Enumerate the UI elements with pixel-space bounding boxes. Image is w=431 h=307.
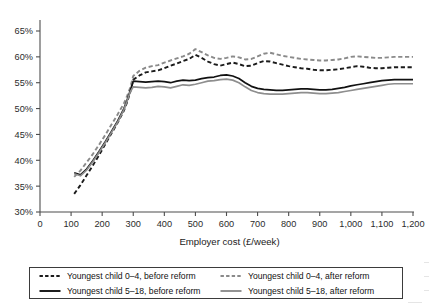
- series-line-1: [74, 55, 413, 194]
- x-tick-group: 01002003004005006007008009001,0001,1001,…: [37, 212, 424, 229]
- x-tick-label: 400: [157, 219, 172, 229]
- y-tick-label: 30%: [15, 207, 33, 217]
- y-tick-label: 55%: [15, 78, 33, 88]
- x-tick-label: 0: [37, 219, 42, 229]
- chart-plot-area: 30%35%40%45%50%55%60%65% 010020030040050…: [0, 0, 431, 258]
- legend-item-label: Youngest child 5–18, before reform: [67, 286, 200, 296]
- x-tick-label: 1,100: [370, 219, 393, 229]
- y-tick-label: 35%: [15, 182, 33, 192]
- x-axis: 01002003004005006007008009001,0001,1001,…: [37, 212, 424, 229]
- legend-item-label: Youngest child 0–4, before reform: [67, 271, 196, 281]
- legend-item[interactable]: Youngest child 0–4, before reform: [30, 269, 216, 283]
- x-tick-label: 700: [250, 219, 265, 229]
- dashed-line-icon: [39, 272, 61, 280]
- x-tick-label: 900: [312, 219, 327, 229]
- y-tick-label: 65%: [15, 26, 33, 36]
- y-tick-group: 30%35%40%45%50%55%60%65%: [15, 26, 40, 217]
- x-tick-label: 800: [281, 219, 296, 229]
- y-tick-label: 45%: [15, 130, 33, 140]
- legend-item-label: Youngest child 5–18, after reform: [248, 286, 374, 296]
- x-tick-label: 200: [94, 219, 109, 229]
- legend-item[interactable]: Youngest child 5–18, after reform: [216, 284, 402, 298]
- x-tick-label: 500: [188, 219, 203, 229]
- x-tick-label: 1,200: [402, 219, 425, 229]
- solid-line-icon: [39, 287, 61, 295]
- scan-artifact: [424, 262, 429, 263]
- y-tick-label: 60%: [15, 52, 33, 62]
- x-tick-label: 300: [126, 219, 141, 229]
- y-tick-label: 40%: [15, 156, 33, 166]
- dashed-line-icon: [220, 272, 242, 280]
- legend-grid: Youngest child 0–4, before reformYounges…: [30, 268, 402, 298]
- x-axis-title: Employer cost (£/week): [179, 236, 279, 247]
- scan-artifact: [424, 290, 429, 291]
- legend-item-label: Youngest child 0–4, after reform: [248, 271, 370, 281]
- scan-artifact: [408, 302, 422, 303]
- chart-legend: Youngest child 0–4, before reformYounges…: [29, 267, 403, 299]
- series-line-3: [74, 75, 413, 175]
- legend-item[interactable]: Youngest child 0–4, after reform: [216, 269, 402, 283]
- series-line-4: [74, 79, 413, 176]
- series-line-2: [74, 49, 413, 177]
- x-tick-label: 600: [219, 219, 234, 229]
- scan-artifact: [424, 276, 429, 277]
- figure: 30%35%40%45%50%55%60%65% 010020030040050…: [0, 0, 431, 307]
- line-chart: 30%35%40%45%50%55%60%65% 010020030040050…: [0, 0, 431, 258]
- series-group: [74, 49, 413, 194]
- y-axis: 30%35%40%45%50%55%60%65%: [15, 20, 40, 217]
- y-tick-label: 50%: [15, 104, 33, 114]
- solid-line-icon: [220, 287, 242, 295]
- legend-item[interactable]: Youngest child 5–18, before reform: [30, 284, 216, 298]
- x-tick-label: 100: [63, 219, 78, 229]
- x-tick-label: 1,000: [339, 219, 362, 229]
